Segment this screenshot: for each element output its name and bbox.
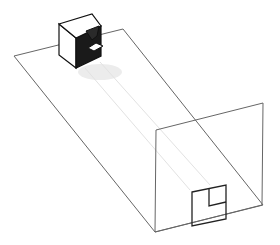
projection-square bbox=[192, 185, 226, 226]
illustration-svg bbox=[0, 0, 280, 245]
projection-ray bbox=[100, 62, 210, 185]
notched-cube bbox=[59, 14, 103, 68]
cube-shadow bbox=[78, 64, 122, 80]
projection-ray bbox=[85, 68, 190, 190]
projection-notch bbox=[209, 189, 226, 206]
projection-illustration bbox=[0, 0, 280, 245]
